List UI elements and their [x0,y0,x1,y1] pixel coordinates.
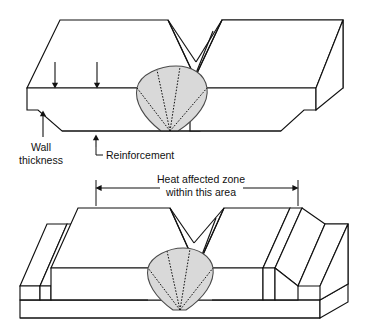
wall-thickness-label-line1: Wall [31,141,51,153]
welding-diagram-figure: Welded joint cross-section with heat aff… [0,0,368,336]
haz-label-line1: Heat affected zone [157,173,245,185]
bottom-panel-right-inner-strip-face [263,268,275,300]
reinforcement-label: Reinforcement [106,149,174,161]
bottom-panel-left-inner-strip-face [40,286,51,300]
diagram-canvas: Welded joint cross-section with heat aff… [0,0,368,336]
top-panel-right-plate-front-face [190,88,316,131]
top-panel-reinforcement-leader [93,134,103,155]
top-panel: Wall thickness Reinforcement [19,20,343,166]
bottom-panel-left-outer-strip-face [20,286,40,300]
bottom-panel: Heat affected zone within this area [20,173,348,318]
haz-label-line2: within this area [165,186,236,198]
wall-thickness-label-line2: thickness [19,154,63,166]
